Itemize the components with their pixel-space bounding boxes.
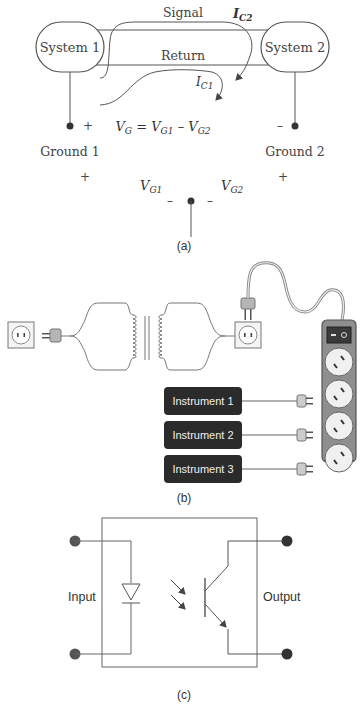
output-label: Output (263, 590, 301, 604)
strip-socket-1 (325, 348, 353, 376)
system2-label: System 2 (265, 40, 326, 55)
strip-socket-4 (325, 444, 353, 472)
output-terminal-bottom (282, 649, 293, 660)
primary-wire-top (61, 303, 133, 336)
system2-node: System 2 (261, 22, 329, 72)
return-label: Return (161, 48, 205, 63)
caption-b: (b) (177, 491, 192, 505)
input-label: Input (68, 590, 96, 604)
system1-label: System 1 (40, 40, 101, 55)
caption-c: (c) (177, 688, 191, 702)
primary-coil (133, 315, 136, 358)
panel-a: System 1 System 2 Signal Return IC2 IC1 … (36, 5, 329, 253)
vg-equation: VG = VG1 – VG2 (115, 119, 210, 136)
output-terminal-top (282, 536, 293, 547)
instrument-1: Instrument 1 (164, 387, 313, 415)
ic2-label: IC2 (232, 6, 253, 23)
secondary-wire-top (162, 303, 235, 336)
instrument-1-label: Instrument 1 (172, 395, 233, 407)
ground1-terminal (67, 123, 74, 130)
ground2-terminal (292, 123, 299, 130)
input-wire-top (75, 541, 131, 583)
vg1-label: VG1 (140, 178, 162, 195)
optocoupler-package (102, 518, 257, 667)
power-strip-plug (241, 298, 255, 320)
vg2-label: VG2 (221, 178, 244, 195)
led-diode-icon (122, 584, 140, 603)
secondary-wire-bottom (162, 336, 225, 370)
isolated-outlet (235, 322, 261, 348)
light-arrow-1 (171, 580, 185, 594)
plug-left (42, 329, 61, 342)
secondary-coil (159, 315, 162, 358)
primary-wire-bottom (70, 336, 133, 370)
ground2-label: Ground 2 (265, 144, 325, 159)
vg2-plus: + (278, 170, 288, 184)
input-wire-bottom (75, 603, 131, 654)
caption-a: (a) (177, 239, 192, 253)
vg1-plus: + (80, 170, 90, 184)
center-minus-left: – (167, 194, 173, 208)
signal-label: Signal (163, 5, 203, 20)
strip-socket-2 (325, 380, 353, 408)
strip-socket-3 (325, 412, 353, 440)
light-arrow-2 (171, 595, 185, 609)
ground1-plus: + (83, 119, 93, 133)
panel-c: Input Output (c) (68, 518, 301, 702)
power-cord (248, 263, 344, 320)
ic1-label: IC1 (195, 75, 213, 91)
system1-node: System 1 (36, 22, 104, 72)
instrument-3: Instrument 3 (164, 455, 313, 483)
instrument-2: Instrument 2 (164, 421, 313, 449)
figure-canvas: System 1 System 2 Signal Return IC2 IC1 … (0, 0, 360, 711)
ground2-minus: – (277, 119, 283, 133)
power-switch (327, 327, 351, 343)
panel-b: Instrument 1 Instrument 2 Instrument 3 (… (8, 263, 356, 505)
center-minus-right: – (207, 194, 213, 208)
ground1-label: Ground 1 (40, 144, 100, 159)
power-strip (322, 320, 356, 472)
instrument-2-label: Instrument 2 (172, 429, 233, 441)
instrument-3-label: Instrument 3 (172, 463, 233, 475)
wall-outlet-left (8, 322, 34, 348)
